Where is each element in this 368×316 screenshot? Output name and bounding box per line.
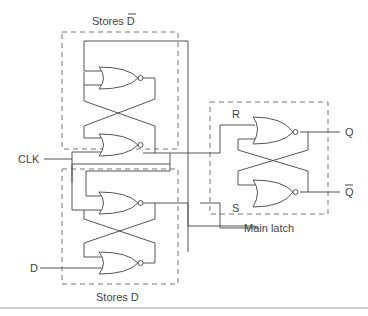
bottom-nor-gate-2	[99, 252, 143, 274]
top-latch-label: Stores D	[92, 15, 135, 27]
top-nor-gate-1	[99, 67, 143, 89]
clk-label: CLK	[18, 153, 40, 165]
main-nor-gate-r	[253, 117, 298, 144]
main-latch-label: Main latch	[244, 222, 294, 234]
q-bar-output-label: Q	[345, 186, 354, 198]
bottom-divider	[0, 307, 368, 309]
r-label: R	[232, 108, 240, 120]
bottom-nor-gate-1	[99, 192, 143, 214]
d-input-label: D	[30, 262, 38, 274]
main-nor-gate-s	[253, 180, 298, 207]
top-nor-gate-2	[99, 134, 143, 156]
s-label: S	[232, 202, 239, 214]
bottom-latch-label: Stores D	[96, 291, 139, 303]
flip-flop-diagram: Stores D Stores D Main latch CLK D R S Q…	[0, 0, 368, 316]
top-latch-box	[62, 32, 178, 149]
q-output-label: Q	[345, 126, 354, 138]
